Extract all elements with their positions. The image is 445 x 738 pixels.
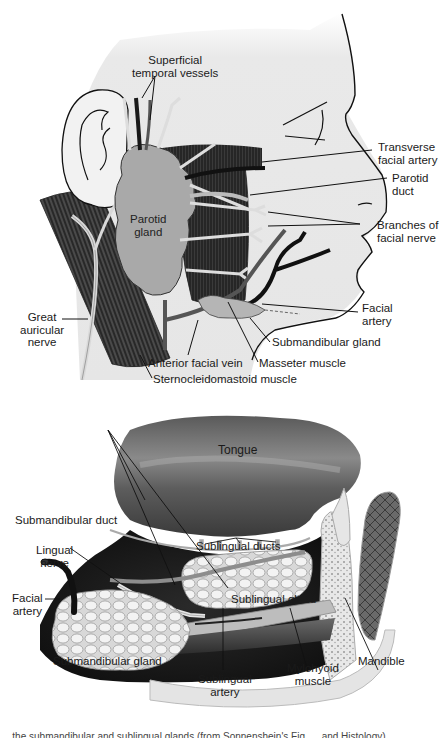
- label-submandibular-gland-top: Submandibular gland: [272, 336, 381, 349]
- label-masseter-muscle: Masseter muscle: [259, 357, 346, 370]
- floor-of-mouth-illustration: Tongue Submandibular duct Sublingual duc…: [0, 380, 445, 720]
- label-facial-artery-bottom: Facial artery: [12, 592, 43, 617]
- parotid-region-illustration: Superficial temporal vessels Transverse …: [0, 0, 445, 380]
- label-sublingual-ducts: Sublingual ducts: [196, 540, 280, 553]
- figure-caption-clipped: ...the submandibular and sublingual glan…: [4, 731, 444, 738]
- label-sublingual-gland: Sublingual gland: [231, 593, 316, 606]
- label-great-auricular-nerve: Great auricular nerve: [20, 311, 64, 349]
- label-facial-artery-top: Facial artery: [362, 302, 393, 327]
- label-branches-of-facial-nerve: Branches of facial nerve: [377, 219, 438, 244]
- label-transverse-facial-artery: Transverse facial artery: [378, 141, 437, 166]
- label-sublingual-artery: Sublingual artery: [198, 673, 252, 698]
- label-lingual-nerve: Lingual nerve: [36, 544, 73, 569]
- label-superficial-temporal-vessels: Superficial temporal vessels: [132, 54, 218, 79]
- label-tongue: Tongue: [218, 444, 257, 457]
- label-mandible: Mandible: [358, 655, 405, 668]
- label-anterior-facial-vein: Anterior facial vein: [148, 357, 243, 370]
- label-parotid-duct: Parotid duct: [392, 172, 428, 197]
- label-parotid-gland: Parotid gland: [130, 213, 166, 238]
- label-mylohyoid-muscle: Mylohyoid muscle: [287, 662, 339, 687]
- label-submandibular-gland-bottom: Submandibular gland: [53, 655, 162, 668]
- label-submandibular-duct: Submandibular duct: [15, 514, 117, 527]
